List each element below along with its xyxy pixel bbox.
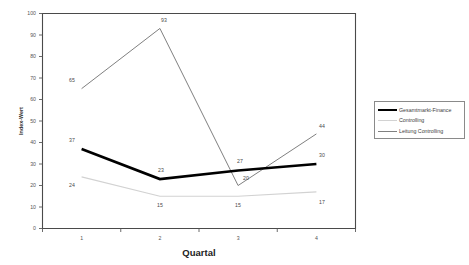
legend-item-controlling: Controlling <box>378 116 464 127</box>
x-axis-tick-labels: 1 2 3 4 <box>80 235 318 241</box>
line-chart: 0 10 20 30 40 50 60 70 80 90 100 Index-W… <box>0 0 469 265</box>
legend-line-swatch-icon <box>378 131 397 132</box>
y-tick-label: 80 <box>30 53 36 59</box>
legend-item-leitung-controlling: Leitung Controlling <box>378 126 464 137</box>
x-tick-label: 4 <box>315 235 318 241</box>
y-tick-label: 0 <box>33 225 36 231</box>
legend-item-label: Gesamtmarkt-Finance <box>399 108 451 113</box>
legend-line-swatch-icon <box>378 120 397 121</box>
y-axis-tick-labels: 0 10 20 30 40 50 60 70 80 90 100 <box>27 10 36 231</box>
point-label: 15 <box>157 202 163 208</box>
y-tick-label: 60 <box>30 96 36 102</box>
point-label: 15 <box>235 202 241 208</box>
series-line-gesamtmarkt-finance <box>82 149 317 179</box>
y-tick-label: 50 <box>30 118 36 124</box>
y-tick-label: 30 <box>30 161 36 167</box>
y-tick-label: 100 <box>27 10 36 16</box>
legend-item-gesamtmarkt-finance: Gesamtmarkt-Finance <box>378 105 464 116</box>
point-label: 23 <box>158 167 164 173</box>
x-axis-title: Quartal <box>182 247 215 258</box>
point-label: 93 <box>161 17 167 23</box>
chart-legend: Gesamtmarkt-Finance Controlling Leitung … <box>374 101 465 139</box>
series-line-controlling <box>82 177 317 196</box>
point-label: 17 <box>319 199 325 205</box>
y-tick-label: 40 <box>30 139 36 145</box>
y-tick-label: 70 <box>30 75 36 81</box>
y-tick-label: 90 <box>30 32 36 38</box>
point-labels-controlling: 24 15 15 17 <box>69 182 325 208</box>
x-tick-label: 2 <box>158 235 161 241</box>
point-label: 24 <box>69 182 75 188</box>
x-tick-label: 1 <box>80 235 83 241</box>
point-label: 37 <box>69 137 75 143</box>
point-labels-leitung-controlling: 65 93 20 44 <box>69 17 325 181</box>
point-label: 27 <box>237 158 243 164</box>
x-tick-label: 3 <box>237 235 240 241</box>
y-tick-label: 20 <box>30 182 36 188</box>
y-tick-label: 10 <box>30 204 36 210</box>
point-label: 44 <box>319 123 325 129</box>
legend-item-label: Controlling <box>399 118 424 123</box>
y-axis-title: Index-Wert <box>18 107 24 135</box>
point-label: 30 <box>319 152 325 158</box>
point-label: 65 <box>69 77 75 83</box>
legend-item-label: Leitung Controlling <box>399 129 443 134</box>
point-label: 20 <box>243 175 249 181</box>
legend-line-swatch-icon <box>378 109 397 111</box>
